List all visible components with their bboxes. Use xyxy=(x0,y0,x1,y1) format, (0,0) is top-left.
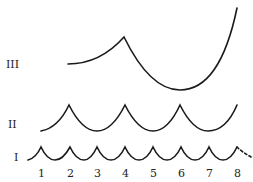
curve-row-i-dashed-continuation xyxy=(237,147,251,157)
tick-label-5: 5 xyxy=(150,167,157,180)
cusp-arch-diagram: III II I 1 2 3 4 5 6 7 8 xyxy=(0,0,253,182)
tick-label-2: 2 xyxy=(67,167,74,180)
curve-row-i xyxy=(28,147,237,160)
curve-row-ii xyxy=(41,105,237,131)
tick-label-1: 1 xyxy=(38,167,45,180)
row-label-ii: II xyxy=(8,118,17,131)
row-label-i: I xyxy=(14,151,18,164)
tick-label-3: 3 xyxy=(94,167,101,180)
tick-label-8: 8 xyxy=(234,167,241,180)
tick-label-4: 4 xyxy=(122,167,129,180)
row-label-iii: III xyxy=(6,58,19,71)
tick-label-6: 6 xyxy=(178,167,185,180)
tick-label-7: 7 xyxy=(206,167,213,180)
curve-row-iii xyxy=(68,8,237,90)
